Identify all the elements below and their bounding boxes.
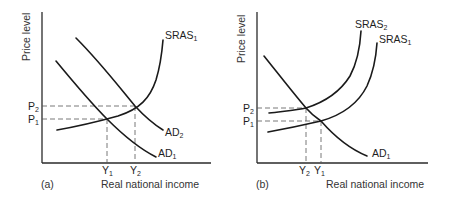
panel-b-y2-label: Y2 xyxy=(299,164,310,177)
panel-b-ad1-label: AD1 xyxy=(372,147,391,160)
ad-as-diagram: Price level P2 P1 Y1 Y2 SRAS1 AD2 AD1 (a… xyxy=(0,0,453,205)
panel-a-p1-label: P1 xyxy=(28,113,39,126)
panel-b-sras2-label: SRAS2 xyxy=(355,18,388,31)
panel-b-p2-label: P2 xyxy=(243,102,254,115)
panel-b-sras1-label: SRAS1 xyxy=(379,33,412,46)
panel-b-y1-label: Y1 xyxy=(314,164,325,177)
panel-a-demand-shift: Price level P2 P1 Y1 Y2 SRAS1 AD2 AD1 (a… xyxy=(20,12,211,190)
panel-a-y2-label: Y2 xyxy=(130,164,141,177)
panel-b-label: (b) xyxy=(256,178,269,190)
panel-a-ad2-label: AD2 xyxy=(165,126,184,139)
panel-a-label: (a) xyxy=(41,178,54,190)
panel-a-p2-label: P2 xyxy=(28,100,39,113)
panel-a-sras1-label: SRAS1 xyxy=(165,29,198,42)
panel-a-y-axis-label: Price level xyxy=(20,13,32,61)
panel-a-ad1-label: AD1 xyxy=(158,147,177,160)
panel-b-p1-label: P1 xyxy=(243,115,254,128)
panel-a-x-axis-label: Real national income xyxy=(101,178,199,190)
panel-a-ad1-curve xyxy=(56,61,156,157)
panel-b-y-axis-label: Price level xyxy=(235,15,247,63)
panel-b-supply-shift: Price level P2 P1 Y2 Y1 SRAS2 SRAS1 AD1 … xyxy=(235,12,428,190)
panel-a-y1-label: Y1 xyxy=(102,164,113,177)
panel-b-sras2-curve xyxy=(269,31,361,113)
panel-b-sras1-curve xyxy=(268,43,377,132)
panel-a-sras1-curve xyxy=(57,40,163,130)
panel-b-x-axis-label: Real national income xyxy=(326,178,424,190)
